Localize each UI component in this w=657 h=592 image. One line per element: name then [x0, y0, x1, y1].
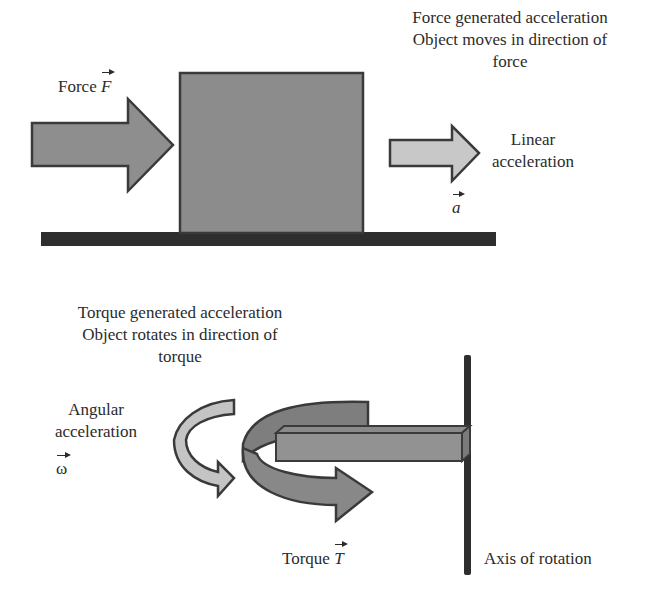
- torque-vector-symbol: T: [334, 548, 343, 570]
- force-text: Force: [58, 77, 97, 96]
- linear-accel-line1: Linear: [478, 129, 588, 151]
- linear-caption-line3: force: [365, 51, 655, 73]
- force-arrow-icon: [32, 99, 173, 191]
- angular-acceleration-arrow-icon: [174, 400, 234, 496]
- force-vector-symbol: F: [101, 76, 111, 98]
- omega-symbol-text: ω: [56, 459, 67, 479]
- rotational-caption-line3: torque: [32, 346, 328, 368]
- force-label: Force F: [58, 76, 111, 98]
- angular-vector-symbol: ω: [56, 459, 67, 479]
- torque-text: Torque: [282, 549, 330, 568]
- rotational-caption: Torque generated acceleration Object rot…: [32, 302, 328, 368]
- rotational-caption-line1: Torque generated acceleration: [32, 302, 328, 324]
- axis-of-rotation-label: Axis of rotation: [484, 548, 592, 570]
- linear-accel-line2: acceleration: [478, 151, 588, 173]
- linear-caption-line2: Object moves in direction of: [365, 29, 655, 51]
- angular-line1: Angular: [42, 399, 150, 421]
- rotation-axis: [464, 355, 471, 575]
- acceleration-vector-symbol: a: [452, 198, 461, 218]
- linear-acceleration-arrow-icon: [390, 126, 479, 181]
- angular-line2: acceleration: [42, 421, 150, 443]
- linear-caption-line1: Force generated acceleration: [365, 7, 655, 29]
- angular-acceleration-label: Angular acceleration: [42, 399, 150, 443]
- linear-caption: Force generated acceleration Object move…: [365, 7, 655, 73]
- block-object: [180, 73, 363, 233]
- rotating-rod-top: [276, 426, 470, 433]
- rotating-rod-end: [462, 426, 470, 461]
- torque-label: Torque T: [282, 548, 344, 570]
- linear-acceleration-label: Linear acceleration: [478, 129, 588, 173]
- accel-symbol-text: a: [452, 198, 461, 218]
- rotating-rod: [276, 433, 462, 461]
- rotational-caption-line2: Object rotates in direction of: [32, 324, 328, 346]
